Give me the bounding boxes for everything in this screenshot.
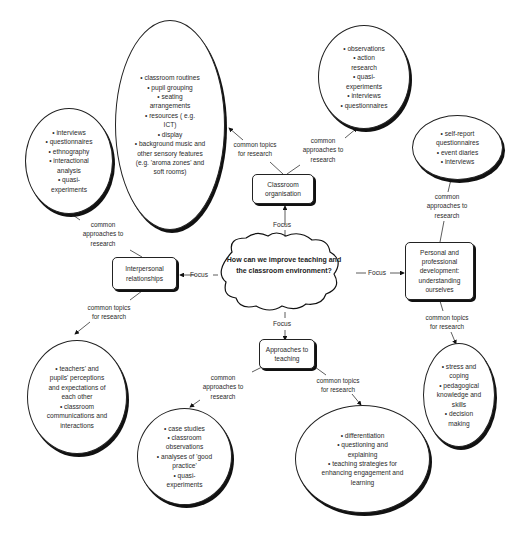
focus-label-right: Focus (368, 269, 386, 277)
topic-item: pedagogical knowledge and skills (434, 381, 484, 409)
approach-item: interviews (431, 157, 485, 166)
link-label-approaches-personal: common approaches to research (414, 192, 480, 220)
topics-teaching: differentiation questioning and explaini… (295, 405, 430, 513)
topic-item: classroom routines (139, 73, 201, 82)
topic-item: seating arrangements (139, 92, 201, 111)
central-question: How can we improve teaching and the clas… (226, 255, 342, 276)
link-label-topics-personal: common topics for research (413, 313, 481, 332)
approach-item: ethnography (42, 147, 96, 156)
approach-item: observations (340, 44, 387, 53)
focus-label-top: Focus (273, 221, 291, 229)
node-classroom-organisation: Classroom organisation (252, 174, 314, 204)
topic-item: display (134, 130, 206, 139)
focus-label-left: Focus (190, 271, 208, 279)
link-label-topics-classroom: common topics for research (222, 140, 288, 159)
approach-item: quasi-experiments (162, 471, 208, 490)
node-approaches-to-teaching: Approaches to teaching (259, 339, 315, 369)
approach-item: questionnaires (42, 137, 96, 146)
approach-item: self-report questionnaires (431, 129, 485, 148)
topics-interpersonal: teachers' and pupils' perceptions and ex… (27, 340, 127, 454)
approaches-personal: self-report questionnaires event diaries… (412, 115, 503, 180)
approach-item: quasi-experiments (46, 175, 92, 194)
node-interpersonal-relationships: Interpersonal relationships (112, 257, 177, 290)
link-label-topics-interpersonal: common topics for research (76, 303, 142, 322)
topic-item: stress and coping (435, 362, 483, 381)
topics-personal: stress and coping pedagogical knowledge … (423, 343, 495, 447)
approaches-classroom-organisation: observations action research quasi-exper… (318, 25, 410, 129)
topic-item: decision making (439, 409, 479, 428)
approach-item: classroom observations (159, 433, 211, 452)
node-label: Approaches to teaching (262, 345, 312, 363)
topic-item: background music and other sensory featu… (134, 139, 206, 177)
focus-label-bottom: Focus (273, 320, 291, 328)
topic-item: teaching strategies for enhancing engage… (318, 459, 408, 487)
topic-item: teachers' and pupils' perceptions and ex… (47, 364, 107, 402)
link-label-approaches-classroom: common approaches to research (290, 136, 356, 164)
topics-classroom-organisation: classroom routines pupil grouping seatin… (115, 20, 225, 230)
node-label: Personal and professional development: u… (408, 248, 471, 294)
topic-item: pupil grouping (134, 83, 206, 92)
approach-item: analyses of 'good practice' (150, 452, 220, 471)
approach-item: questionnaires (340, 101, 387, 110)
topic-item: differentiation (318, 431, 408, 440)
node-personal-professional-development: Personal and professional development: u… (405, 242, 474, 300)
topic-item: classroom communications and interaction… (46, 402, 108, 430)
node-label: Classroom organisation (255, 180, 311, 198)
link-label-topics-teaching: common topics for research (303, 376, 373, 395)
approach-item: interactional analysis (42, 156, 96, 175)
topic-item: questioning and explaining (331, 440, 395, 459)
link-label-approaches-teaching: common approaches to research (190, 373, 256, 401)
approaches-interpersonal: interviews questionnaires ethnography in… (25, 108, 113, 214)
approach-item: action research (344, 53, 384, 72)
node-label: Interpersonal relationships (115, 264, 174, 282)
approach-item: event diaries (431, 148, 485, 157)
approach-item: interviews (340, 91, 387, 100)
approach-item: interviews (42, 128, 96, 137)
link-label-approaches-interpersonal: common approaches to research (70, 220, 136, 248)
topic-item: resources ( e.g. ICT) (145, 111, 195, 130)
approach-item: quasi-experiments (341, 72, 387, 91)
approaches-teaching: case studies classroom observations anal… (137, 408, 232, 505)
approach-item: case studies (150, 424, 220, 433)
